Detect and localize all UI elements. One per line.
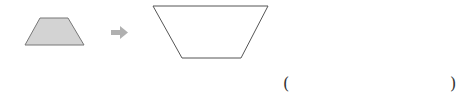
answer-open-paren: ( [283, 74, 289, 94]
large-trapezoid [153, 6, 268, 58]
right-arrow-icon [111, 26, 128, 39]
answer-close-paren: ) [450, 74, 456, 94]
answer-blank[interactable] [295, 74, 445, 94]
small-trapezoid [25, 18, 84, 45]
